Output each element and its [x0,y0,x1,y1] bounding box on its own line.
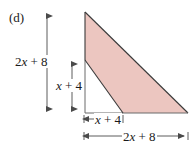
dimension-label-width-total: 2x + 8 [122,130,157,143]
geometry-figure: (d) 2x + 8 x + 4 x + 4 2x + 8 [0,0,196,152]
dimension-label-height-total: 2x + 8 [14,55,49,68]
figure-canvas [0,0,196,152]
part-label: (d) [9,11,24,24]
dimension-label-height-inner: x + 4 [55,79,83,92]
dimension-label-width-inner: x + 4 [94,113,122,126]
